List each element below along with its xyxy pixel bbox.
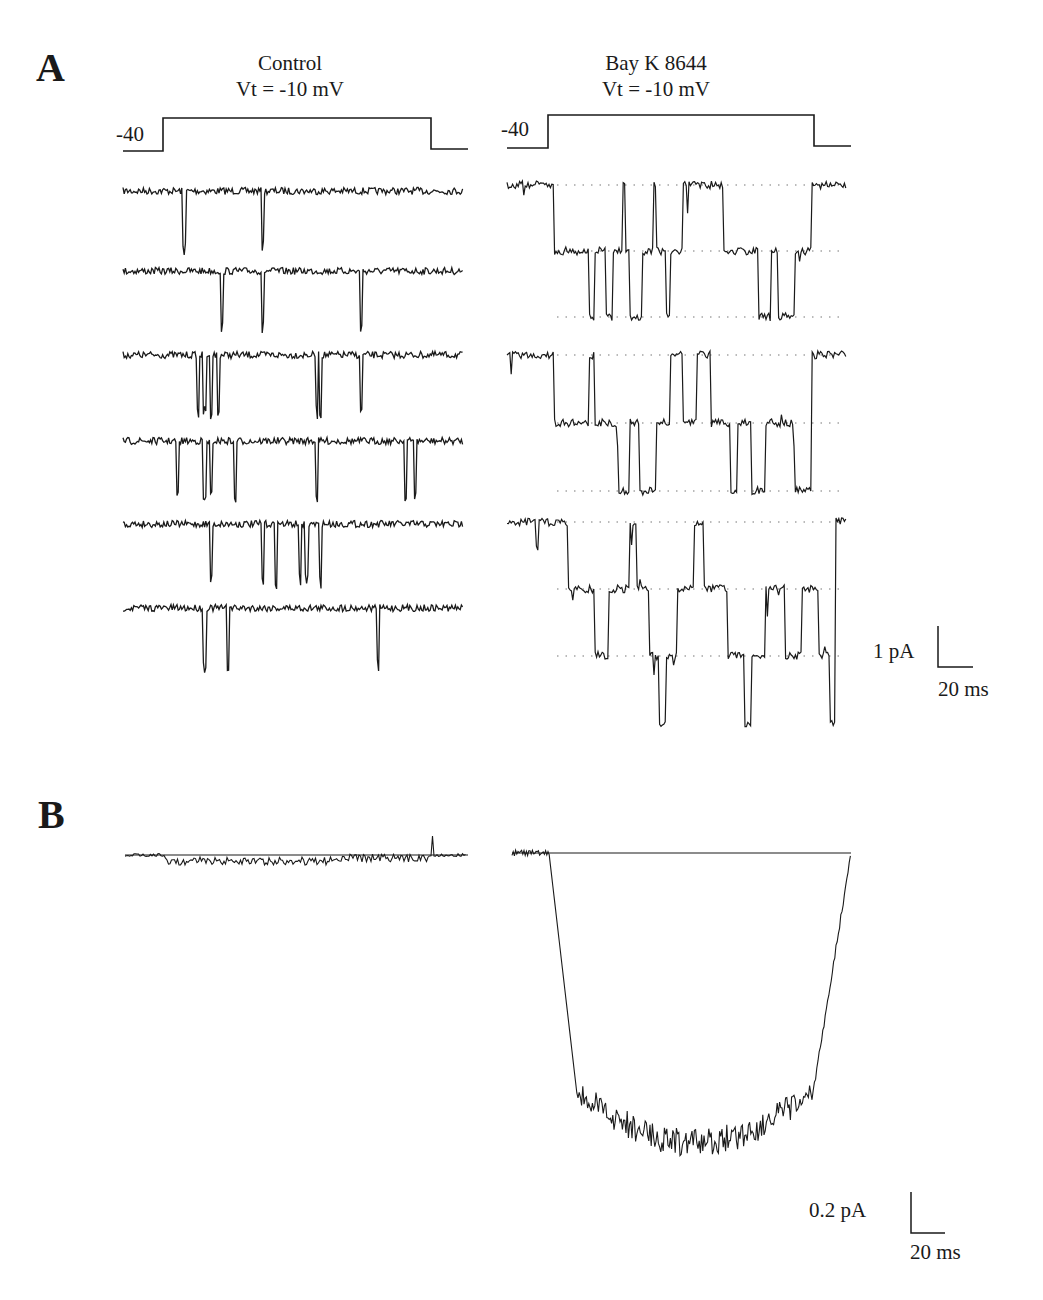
baykt-sweeps xyxy=(507,181,846,727)
control-average-trace xyxy=(125,836,466,865)
control-sweep-trace xyxy=(123,188,463,255)
average-traces xyxy=(125,836,850,1156)
baykt-voltage-step xyxy=(507,115,851,148)
figure-canvas xyxy=(0,0,1043,1300)
control-sweeps xyxy=(123,188,463,673)
control-sweep-trace xyxy=(123,605,463,673)
control-sweep-trace xyxy=(123,438,463,503)
scale-bar-b xyxy=(911,1192,945,1233)
scale-bar-a xyxy=(938,626,973,667)
baykt-average-trace xyxy=(512,850,850,1155)
control-voltage-step xyxy=(123,118,468,151)
control-sweep-trace xyxy=(123,352,463,420)
baykt-sweep-trace xyxy=(507,518,846,727)
control-sweep-trace xyxy=(123,268,463,334)
control-sweep-trace xyxy=(123,521,463,589)
